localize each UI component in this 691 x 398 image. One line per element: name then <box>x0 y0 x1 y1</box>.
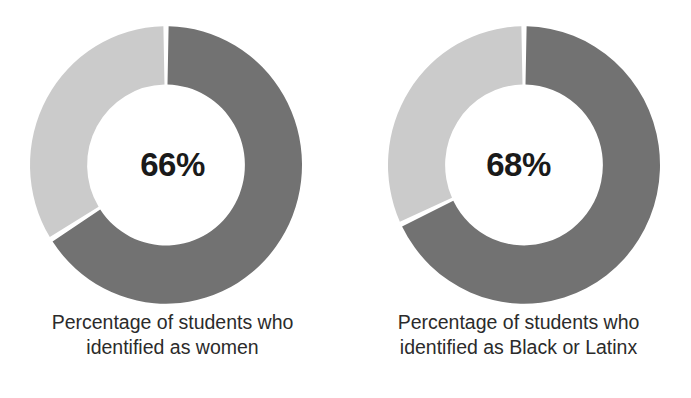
donut-caption-women: Percentage of students who identified as… <box>0 310 345 360</box>
caption-line-1: Percentage of students who <box>6 310 339 335</box>
caption-line-1: Percentage of students who <box>352 310 685 335</box>
donut-svg-women <box>0 26 345 304</box>
donut-chart-women: 66% <box>0 26 345 304</box>
donut-panel-women: 66% Percentage of students who identifie… <box>0 0 345 398</box>
donut-segment-remainder <box>30 26 164 237</box>
donut-caption-black-latinx: Percentage of students who identified as… <box>346 310 691 360</box>
donut-chart-figure: 66% Percentage of students who identifie… <box>0 0 691 398</box>
caption-line-2: identified as women <box>6 335 339 360</box>
donut-segment-remainder <box>388 26 522 221</box>
donut-svg-black-latinx <box>346 26 691 304</box>
donut-panel-black-latinx: 68% Percentage of students who identifie… <box>346 0 691 398</box>
caption-line-2: identified as Black or Latinx <box>352 335 685 360</box>
donut-chart-black-latinx: 68% <box>346 26 691 304</box>
